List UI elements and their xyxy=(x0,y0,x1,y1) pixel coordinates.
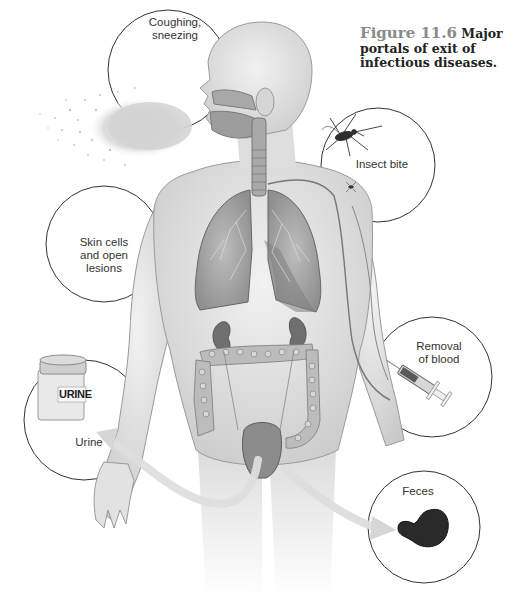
label-line: Removal xyxy=(404,340,474,353)
figure-number: Figure 11.6 xyxy=(360,24,457,42)
label-line: lesions xyxy=(68,262,140,275)
urine-container-tag: URINE xyxy=(59,388,92,400)
label-line: of blood xyxy=(404,353,474,366)
label-line: and open xyxy=(68,249,140,262)
feces-label: Feces xyxy=(388,485,448,498)
insect-bite-label: Insect bite xyxy=(342,158,422,171)
label-line: Urine xyxy=(64,436,114,449)
label-line: Feces xyxy=(388,485,448,498)
removal-of-blood-label: Removal of blood xyxy=(404,340,474,366)
figure-illustration xyxy=(0,0,514,596)
figure-caption: Figure 11.6 Major portals of exit of inf… xyxy=(360,26,510,71)
label-line: Coughing, xyxy=(140,16,210,29)
coughing-label: Coughing, sneezing xyxy=(140,16,210,42)
skin-cells-label: Skin cells and open lesions xyxy=(68,236,140,275)
urine-label: Urine xyxy=(64,436,114,449)
label-line: Skin cells xyxy=(68,236,140,249)
label-line: sneezing xyxy=(140,29,210,42)
label-line: Insect bite xyxy=(342,158,422,171)
